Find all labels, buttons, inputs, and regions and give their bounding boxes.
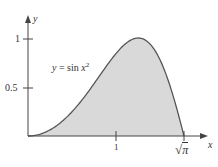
- x-axis-label: x: [208, 140, 212, 150]
- y-axis-label: y: [33, 14, 37, 24]
- function-label-exponent: 2: [86, 61, 90, 69]
- function-label-mid: = sin: [56, 62, 81, 73]
- function-label: y = sin x2: [52, 62, 89, 73]
- y-tick-label-1: 1: [15, 34, 20, 44]
- y-tick-label-0.5: 0.5: [5, 83, 18, 93]
- y-axis-arrow-icon: [25, 15, 31, 23]
- shaded-area: [28, 38, 184, 136]
- pi-symbol: π: [182, 142, 188, 157]
- x-axis-arrow-icon: [200, 133, 208, 139]
- x-tick-label-1: 1: [114, 143, 119, 152]
- x-tick-label-sqrt-pi: √π: [175, 143, 188, 156]
